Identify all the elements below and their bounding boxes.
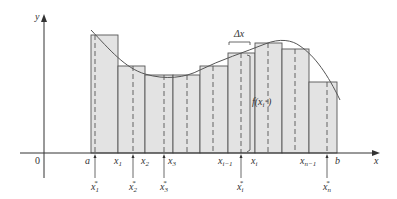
- riemann-rectangle: [282, 49, 309, 153]
- riemann-rectangle: [228, 53, 255, 153]
- riemann-rectangle: [200, 66, 228, 153]
- origin-label: 0: [35, 156, 40, 166]
- riemann-sum-diagram: [0, 0, 397, 199]
- sample-point-arrows: [94, 154, 329, 178]
- arrow-head-icon: [326, 154, 329, 158]
- partition-label-x2: x2: [141, 156, 149, 168]
- arrow-head-icon: [163, 154, 166, 158]
- partition-label-xi-1: xi−1: [218, 156, 233, 168]
- height-label: f(xi*): [252, 97, 271, 109]
- sample-label-x2: x2*: [129, 180, 135, 194]
- sample-label-x3: x3*: [160, 180, 166, 194]
- sample-label-xi: xi*: [237, 180, 243, 194]
- partition-label-b: b: [335, 156, 340, 166]
- x-axis-label: x: [374, 156, 378, 166]
- arrow-head-icon: [132, 154, 135, 158]
- riemann-rectangles: [91, 35, 337, 153]
- partition-label-xn-1: xn−1: [300, 156, 316, 168]
- partition-label-xi: xi: [251, 156, 257, 168]
- delta-x-brace: [229, 42, 250, 45]
- partition-label-a: a: [85, 156, 90, 166]
- riemann-rectangle: [145, 75, 173, 153]
- riemann-rectangle: [173, 75, 200, 153]
- partition-label-x3: x3: [168, 156, 176, 168]
- riemann-rectangle: [309, 82, 337, 153]
- partition-label-x1: x1: [114, 156, 122, 168]
- sample-label-x1: x1*: [91, 180, 97, 194]
- sample-label-xn: xn*: [323, 180, 329, 194]
- riemann-rectangle: [118, 66, 145, 153]
- arrow-head-icon: [240, 154, 243, 158]
- arrow-head-icon: [94, 154, 97, 158]
- y-axis-label: y: [35, 12, 39, 22]
- delta-x-label: Δx: [234, 29, 244, 39]
- y-axis-arrow-icon: [41, 14, 47, 22]
